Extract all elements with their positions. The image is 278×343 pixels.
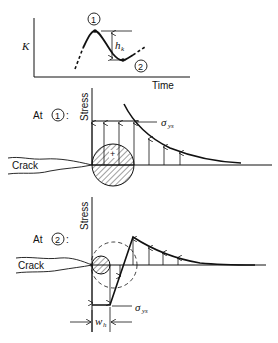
panel-1-stress-label: Stress [79,93,90,121]
k-curve [83,31,133,60]
panel-at-2: At 2 : Stress Crack σ ys [16,197,266,332]
panel-1-stress-curve [124,104,241,163]
panel-2-sigma-sub: ys [141,307,148,315]
panel-2-colon: : [66,234,69,245]
panel-2-stress-curve [92,237,255,305]
wh-sub: h [103,321,107,329]
wh-label: w [95,315,103,327]
panel-1-prefix: At [33,110,43,121]
k-time-plot: K Time 1 2 h k [21,13,190,91]
point-1-dot [93,29,97,33]
panel-at-1: At 1 : Stress Crack + σ ys [8,88,272,186]
k-axis-label: K [21,40,30,52]
panel-1-sigma-label: σ [161,116,167,128]
hk-sub: k [121,45,125,53]
panel-2-marker: 2 [55,235,60,245]
panel-1-crack-label: Crack [12,160,39,171]
panel-1-sigma-sub: ys [167,122,174,130]
k-curve-dashed-start [75,48,83,69]
panel-2-stress-label: Stress [79,202,90,230]
panel-1-colon: : [66,110,69,121]
panel-1-marker: 1 [55,111,60,121]
fatigue-crack-diagram: K Time 1 2 h k At 1 : Stress C [0,0,278,343]
panel-2-sigma-label: σ [135,301,141,313]
point-2-label: 2 [138,62,143,72]
time-axis-label: Time [152,80,174,91]
panel-2-crack-label: Crack [18,260,45,271]
k-curve-dashed-end [133,47,145,55]
panel-2-prefix: At [33,234,43,245]
panel-1-zone-sign: + [110,149,115,159]
panel-2-reversed-zone [92,256,110,274]
point-1-label: 1 [91,15,96,25]
